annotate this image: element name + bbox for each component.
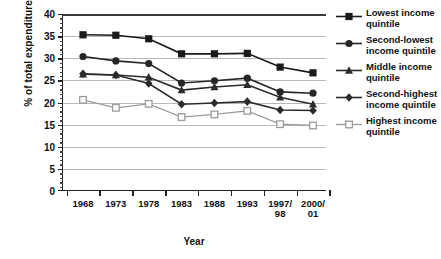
x-tick-label: 1993	[237, 199, 258, 209]
x-tick-label: 1997/ 98	[268, 199, 292, 219]
legend-item[interactable]: Highest income quintile	[336, 116, 440, 137]
legend-item[interactable]: Second-highest income quintile	[336, 89, 440, 110]
legend-label: Second-lowest income quintile	[362, 35, 440, 56]
chart-legend: Lowest income quintileSecond-lowest inco…	[336, 8, 440, 143]
data-point	[244, 108, 251, 115]
x-tick-label: 2000/ 01	[301, 199, 325, 219]
y-tick-label: 15	[44, 119, 55, 130]
plot-area: 0510152025303540196819731978198319881993…	[62, 14, 326, 191]
chart-root: % of total expenditure 05101520253035401…	[0, 0, 441, 259]
data-point	[211, 50, 218, 57]
data-point	[145, 35, 152, 42]
data-point	[178, 50, 185, 57]
data-point	[310, 122, 317, 129]
legend-item[interactable]: Lowest income quintile	[336, 8, 440, 29]
legend-marker-icon	[336, 90, 362, 103]
y-tick-label: 30	[44, 53, 55, 64]
legend-marker-icon	[336, 117, 362, 130]
data-point	[112, 32, 119, 39]
x-axis-title: Year	[62, 236, 326, 247]
data-point	[178, 114, 185, 121]
data-point	[145, 60, 152, 67]
legend-label: Second-highest income quintile	[362, 89, 440, 110]
legend-marker-icon	[336, 36, 362, 49]
legend-label: Middle income quintile	[362, 62, 440, 83]
x-tick-label: 1983	[171, 199, 192, 209]
data-point	[178, 79, 185, 86]
legend-label: Lowest income quintile	[362, 8, 440, 29]
data-point	[80, 97, 87, 104]
data-point	[211, 111, 218, 118]
legend-item[interactable]: Second-lowest income quintile	[336, 35, 440, 56]
data-point	[145, 101, 152, 108]
legend-label: Highest income quintile	[362, 116, 440, 137]
legend-marker-icon	[336, 9, 362, 22]
data-point	[277, 121, 284, 128]
y-tick-label: 10	[44, 141, 55, 152]
data-point	[79, 31, 86, 38]
legend-marker-icon	[336, 63, 362, 76]
y-tick-label: 5	[49, 163, 55, 174]
y-axis-title: % of total expenditure	[23, 0, 34, 134]
y-tick-label: 0	[49, 186, 55, 197]
y-tick-label: 25	[44, 75, 55, 86]
y-tick-label: 40	[44, 9, 55, 20]
data-point	[276, 106, 284, 115]
data-point	[243, 97, 251, 106]
y-tick-label: 20	[44, 97, 55, 108]
x-tick	[329, 190, 330, 196]
data-point	[113, 105, 120, 112]
series-layer	[63, 14, 327, 191]
x-tick-label: 1978	[138, 199, 159, 209]
data-point	[277, 64, 284, 71]
data-point	[309, 69, 316, 76]
data-point	[79, 53, 86, 60]
x-tick-label: 1968	[72, 199, 93, 209]
data-point	[112, 57, 119, 64]
x-tick-label: 1988	[204, 199, 225, 209]
legend-item[interactable]: Middle income quintile	[336, 62, 440, 83]
y-tick-label: 35	[44, 31, 55, 42]
x-tick-label: 1973	[105, 199, 126, 209]
series-1	[79, 31, 316, 76]
data-point	[211, 99, 219, 108]
data-point	[244, 50, 251, 57]
data-point	[309, 90, 316, 97]
data-point	[178, 100, 186, 109]
